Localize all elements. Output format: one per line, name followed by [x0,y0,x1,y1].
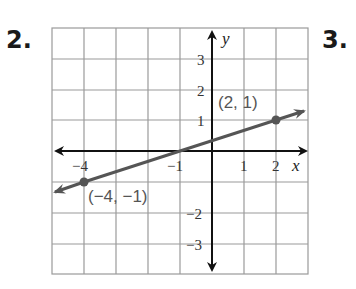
y-axis-label: y [220,29,230,48]
y-tick-2: 2 [197,83,205,99]
y-tick-3: 3 [197,52,205,68]
x-tick-1: 1 [240,158,248,174]
point-label-neg4-neg1: (−4, −1) [88,187,148,206]
y-tick-neg3: −3 [186,237,202,253]
coordinate-plane: −4 −1 1 2 x 3 2 1 −2 −3 y (2, 1) (−4, −1… [0,0,356,289]
point-neg4-neg1 [80,178,89,187]
y-tick-1: 1 [197,113,205,129]
x-tick-2: 2 [272,158,280,174]
x-tick-neg1: −1 [167,158,183,174]
x-tick-neg4: −4 [72,158,88,174]
point-2-1 [272,116,281,125]
point-label-2-1: (2, 1) [218,93,258,112]
x-axis-label: x [291,156,300,175]
y-tick-neg2: −2 [186,206,202,222]
